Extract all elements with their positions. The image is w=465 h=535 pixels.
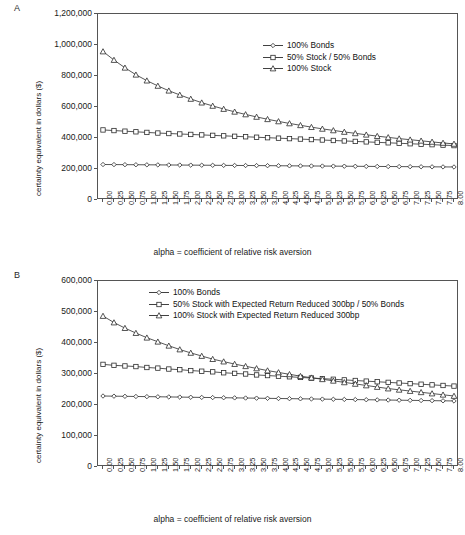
panel-b-letter: B [14, 270, 20, 280]
x-tick-label: 2.50 [215, 191, 224, 205]
x-tick-mark [354, 199, 355, 202]
x-tick-label: 7.50 [434, 191, 443, 205]
x-tick-mark [431, 466, 432, 469]
x-tick-mark [201, 199, 202, 202]
x-tick-mark [288, 466, 289, 469]
x-tick-label: 0.00 [105, 191, 114, 205]
y-tick-label: 500,000 [30, 306, 92, 316]
x-tick-mark [398, 199, 399, 202]
legend-item: 100% Bonds [148, 287, 404, 299]
x-tick-mark [179, 199, 180, 202]
x-tick-mark [102, 466, 103, 469]
x-tick-label: 4.50 [302, 458, 311, 472]
x-tick-label: 1.00 [149, 191, 158, 205]
x-tick-label: 5.25 [335, 191, 344, 205]
x-tick-mark [157, 466, 158, 469]
panel-a-letter: A [14, 3, 20, 13]
x-tick-mark [267, 199, 268, 202]
x-tick-mark [442, 466, 443, 469]
panel-b: B certainty equivalent in dollars ($) 01… [0, 267, 465, 535]
x-tick-label: 0.25 [116, 191, 125, 205]
x-tick-label: 6.00 [368, 458, 377, 472]
y-tick-label: 0 [30, 461, 92, 471]
x-tick-label: 0.50 [127, 458, 136, 472]
legend-label: 50% Stock / 50% Bonds [287, 52, 376, 64]
x-tick-mark [376, 466, 377, 469]
x-tick-mark [442, 199, 443, 202]
legend-label: 100% Bonds [173, 287, 220, 299]
x-tick-label: 3.75 [270, 191, 279, 205]
x-tick-mark [343, 199, 344, 202]
x-tick-label: 6.75 [401, 458, 410, 472]
x-tick-label: 6.25 [379, 191, 388, 205]
x-tick-mark [420, 466, 421, 469]
x-tick-mark [212, 199, 213, 202]
x-tick-mark [278, 466, 279, 469]
x-tick-mark [135, 466, 136, 469]
x-tick-label: 3.75 [270, 458, 279, 472]
x-tick-label: 2.00 [193, 191, 202, 205]
x-tick-mark [365, 466, 366, 469]
x-tick-label: 5.25 [335, 458, 344, 472]
x-tick-label: 4.00 [281, 458, 290, 472]
y-tick-label: 200,000 [30, 399, 92, 409]
diamond-marker-icon [262, 40, 284, 51]
x-tick-label: 3.50 [259, 458, 268, 472]
x-tick-label: 5.00 [324, 191, 333, 205]
x-tick-mark [343, 466, 344, 469]
x-tick-label: 2.75 [226, 191, 235, 205]
x-tick-label: 2.25 [204, 458, 213, 472]
x-tick-label: 5.00 [324, 458, 333, 472]
x-tick-label: 3.50 [259, 191, 268, 205]
x-tick-label: 1.50 [171, 458, 180, 472]
x-tick-mark [387, 466, 388, 469]
y-tick-label: 1,000,000 [30, 39, 92, 49]
x-tick-label: 7.25 [423, 191, 432, 205]
legend-label: 100% Stock with Expected Return Reduced … [173, 310, 359, 322]
y-tick-label: 300,000 [30, 368, 92, 378]
legend-item: 100% Bonds [262, 40, 376, 52]
y-tick-label: 400,000 [30, 132, 92, 142]
x-tick-label: 3.25 [248, 191, 257, 205]
y-tick-label: 0 [30, 194, 92, 204]
y-tick-label: 100,000 [30, 430, 92, 440]
x-tick-mark [431, 199, 432, 202]
x-tick-mark [201, 466, 202, 469]
x-tick-mark [245, 466, 246, 469]
x-tick-label: 0.75 [138, 458, 147, 472]
x-tick-label: 0.50 [127, 191, 136, 205]
x-tick-label: 5.50 [346, 458, 355, 472]
x-tick-mark [102, 199, 103, 202]
x-tick-label: 5.75 [357, 191, 366, 205]
y-tick-label: 600,000 [30, 275, 92, 285]
panel-b-legend: 100% Bonds50% Stock with Expected Return… [148, 287, 404, 322]
x-tick-label: 4.75 [313, 191, 322, 205]
y-tick-label: 600,000 [30, 101, 92, 111]
x-tick-mark [245, 199, 246, 202]
x-tick-label: 7.50 [434, 458, 443, 472]
x-tick-mark [310, 199, 311, 202]
x-tick-mark [234, 199, 235, 202]
legend-item: 50% Stock with Expected Return Reduced 3… [148, 299, 404, 311]
panel-a: A certainty equivalent in dollars ($) 02… [0, 0, 465, 268]
x-tick-mark [453, 466, 454, 469]
x-tick-label: 1.00 [149, 458, 158, 472]
x-tick-mark [234, 466, 235, 469]
x-tick-mark [190, 466, 191, 469]
x-tick-label: 6.50 [390, 191, 399, 205]
x-tick-label: 4.25 [291, 191, 300, 205]
triangle-marker-icon [262, 63, 284, 74]
legend-item: 50% Stock / 50% Bonds [262, 52, 376, 64]
x-tick-label: 7.00 [412, 458, 421, 472]
x-tick-mark [409, 199, 410, 202]
x-tick-label: 8.00 [456, 458, 465, 472]
x-tick-mark [190, 199, 191, 202]
x-tick-label: 1.25 [160, 191, 169, 205]
panel-a-x-axis-title: alpha = coefficient of relative risk ave… [0, 247, 465, 257]
x-tick-mark [376, 199, 377, 202]
legend-label: 100% Stock [287, 63, 331, 75]
x-tick-label: 0.00 [105, 458, 114, 472]
x-tick-label: 7.75 [445, 191, 454, 205]
legend-label: 50% Stock with Expected Return Reduced 3… [173, 299, 404, 311]
x-tick-label: 3.00 [237, 458, 246, 472]
